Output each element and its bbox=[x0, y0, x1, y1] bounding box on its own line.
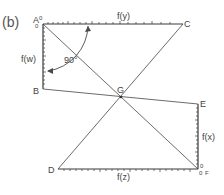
point-g-marker bbox=[120, 96, 123, 99]
scale-label-f-z: f(z) bbox=[117, 172, 130, 182]
arrowhead-icon bbox=[85, 26, 91, 32]
panel-label: (b) bbox=[2, 14, 19, 30]
point-label-f: F bbox=[205, 170, 209, 176]
zero-mark-f-left: 0 bbox=[199, 170, 203, 176]
point-label-e: E bbox=[200, 99, 206, 109]
point-label-b: B bbox=[33, 86, 39, 96]
arrowhead-icon bbox=[47, 68, 53, 74]
point-label-g: G bbox=[117, 85, 124, 95]
scale-f-y bbox=[43, 21, 183, 24]
right-angle-arc bbox=[47, 26, 91, 74]
zero-mark-a-top: 0 bbox=[39, 15, 43, 21]
scale-f-x bbox=[195, 104, 198, 169]
scale-label-f-w: f(w) bbox=[21, 54, 36, 64]
point-label-d: D bbox=[48, 165, 55, 175]
scale-label-f-y: f(y) bbox=[117, 11, 130, 21]
angle-label: 90° bbox=[64, 55, 78, 65]
scale-label-f-x: f(x) bbox=[202, 132, 215, 142]
nomogram-diagram: (b) bbox=[0, 0, 224, 195]
point-label-c: C bbox=[184, 19, 191, 29]
scale-f-w bbox=[43, 24, 46, 89]
zero-mark-f-top: 0 bbox=[200, 163, 204, 169]
